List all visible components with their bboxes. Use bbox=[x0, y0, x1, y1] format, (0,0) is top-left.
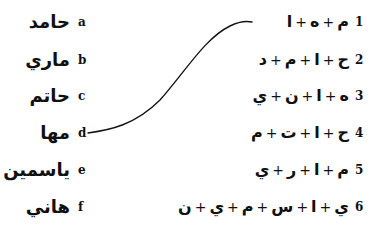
connector-line-d-to-1 bbox=[88, 21, 252, 133]
option-number-1[interactable]: 1 bbox=[355, 16, 371, 28]
matching-worksheet: حامد ماري حاتم مها ياسمين هاني a b c d e… bbox=[0, 0, 373, 237]
plus-sign: + bbox=[320, 15, 338, 29]
plus-sign: + bbox=[267, 89, 285, 103]
spelling-option-4: ح+ا+ت+م bbox=[89, 125, 349, 141]
arabic-letter: م bbox=[251, 125, 263, 141]
plus-sign: + bbox=[293, 200, 311, 214]
option-number-3[interactable]: 3 bbox=[355, 90, 371, 102]
arabic-letter: م bbox=[337, 162, 349, 178]
arabic-letter: ن bbox=[178, 199, 192, 215]
spelling-option-2: ح+ا+م+د bbox=[89, 52, 349, 68]
arabic-letter: م bbox=[285, 52, 297, 68]
arabic-letter: م bbox=[242, 199, 254, 215]
plus-sign: + bbox=[322, 89, 340, 103]
arabic-letter: ي bbox=[209, 199, 224, 215]
arabic-letter: ي bbox=[253, 88, 268, 104]
plus-sign: + bbox=[299, 89, 317, 103]
option-number-5[interactable]: 5 bbox=[355, 164, 371, 176]
arabic-letter: د bbox=[259, 52, 267, 68]
spelling-option-6: ي+ا+س+م+ي+ن bbox=[89, 199, 349, 215]
plus-sign: + bbox=[320, 53, 338, 67]
plus-sign: + bbox=[263, 126, 281, 140]
arabic-letter: ت bbox=[280, 125, 296, 141]
arabic-letter: ه bbox=[310, 14, 319, 30]
arabic-letter: م bbox=[337, 14, 349, 30]
arabic-letter: س bbox=[271, 199, 293, 215]
arabic-letter: ي bbox=[255, 162, 270, 178]
plus-sign: + bbox=[192, 200, 210, 214]
spelling-option-5: م+ا+ر+ي bbox=[89, 162, 349, 178]
spelling-option-1: م+ه+ا bbox=[89, 14, 349, 30]
name-label-f: هاني bbox=[0, 198, 70, 216]
arabic-letter: ر bbox=[287, 162, 296, 178]
arabic-letter: ح bbox=[337, 52, 349, 68]
name-label-d: مها bbox=[0, 124, 70, 142]
name-label-c: حاتم bbox=[0, 87, 70, 105]
plus-sign: + bbox=[317, 200, 335, 214]
option-number-6[interactable]: 6 bbox=[355, 201, 371, 213]
plus-sign: + bbox=[297, 126, 315, 140]
plus-sign: + bbox=[320, 163, 338, 177]
spelling-option-3: ه+ا+ن+ي bbox=[89, 88, 349, 104]
plus-sign: + bbox=[269, 163, 287, 177]
option-number-2[interactable]: 2 bbox=[355, 54, 371, 66]
arabic-letter: ه bbox=[340, 88, 349, 104]
name-label-a: حامد bbox=[0, 13, 70, 31]
plus-sign: + bbox=[254, 200, 272, 214]
plus-sign: + bbox=[320, 126, 338, 140]
plus-sign: + bbox=[267, 53, 285, 67]
option-number-4[interactable]: 4 bbox=[355, 127, 371, 139]
plus-sign: + bbox=[224, 200, 242, 214]
name-label-b: ماري bbox=[0, 51, 70, 69]
arabic-letter: ن bbox=[285, 88, 299, 104]
arabic-letter: ي bbox=[334, 199, 349, 215]
name-label-e: ياسمين bbox=[0, 161, 70, 179]
plus-sign: + bbox=[292, 15, 310, 29]
plus-sign: + bbox=[296, 163, 314, 177]
plus-sign: + bbox=[297, 53, 315, 67]
arabic-letter: ح bbox=[337, 125, 349, 141]
